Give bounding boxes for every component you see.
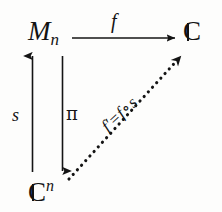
node-complex-plane: C: [183, 18, 201, 45]
node-m-n-subscript: n: [51, 30, 60, 49]
arrow-label-s: s: [12, 106, 19, 124]
arrow-label-pi: π: [66, 105, 78, 123]
node-complex-n-space: Cn: [28, 178, 54, 206]
node-complex-plane-base: C: [183, 18, 201, 45]
node-complex-n-space-base: C: [28, 179, 46, 206]
commutative-diagram: Mn C Cn f s π f′=f∘s: [0, 0, 222, 212]
node-m-n-base: M: [28, 16, 51, 46]
node-m-n: Mn: [28, 18, 59, 48]
arrow-label-f: f: [111, 11, 117, 31]
node-complex-n-space-superscript: n: [46, 177, 54, 194]
